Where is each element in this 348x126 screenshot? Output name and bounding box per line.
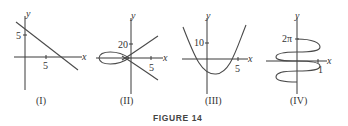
panel-label: (I) <box>36 95 46 107</box>
x-tick-label: 5 <box>43 60 48 71</box>
figure-caption: FIGURE 14 <box>153 113 202 123</box>
figure-14: y x 5 5 (I) y x 20 5 (II) y x 10 5 (III) <box>0 0 348 126</box>
x-tick-label: 1 <box>318 64 323 75</box>
y-axis-label: y <box>25 8 31 19</box>
panel-I: y x 5 5 (I) <box>14 8 87 107</box>
x-axis-label: x <box>247 53 253 64</box>
panel-label: (IV) <box>290 95 307 107</box>
x-tick-label: 5 <box>235 63 240 74</box>
x-axis-label: x <box>326 55 332 66</box>
panel-II: y x 20 5 (II) <box>96 10 168 107</box>
panel-III: y x 10 5 (III) <box>182 10 253 107</box>
y-tick-label: 20 <box>118 39 128 50</box>
x-tick-label: 5 <box>149 62 154 73</box>
panel-IV: y x 2π 1 (IV) <box>266 10 332 107</box>
y-axis-label: y <box>130 10 136 21</box>
panel-label: (II) <box>120 95 133 107</box>
y-tick-label: 5 <box>16 30 21 41</box>
x-axis-label: x <box>81 51 87 62</box>
x-axis-label: x <box>162 52 168 63</box>
panel-label: (III) <box>205 95 222 107</box>
y-tick-label: 2π <box>282 33 292 44</box>
y-axis-label: y <box>205 10 211 21</box>
y-tick-label: 10 <box>194 37 204 48</box>
y-axis-label: y <box>294 10 300 21</box>
